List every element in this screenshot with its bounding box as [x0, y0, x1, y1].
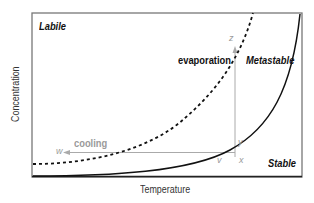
cooling-label: cooling: [74, 138, 107, 149]
x-axis-label: Temperature: [140, 184, 190, 195]
point-label-v: v: [217, 156, 222, 165]
point-label-x: x: [239, 156, 244, 165]
point-label-y: y: [238, 138, 243, 147]
region-label-metastable: Metastable: [246, 55, 294, 66]
region-label-labile: Labile: [39, 21, 66, 32]
arrow-up-icon: [233, 46, 238, 53]
y-axis-label: Concentration: [10, 66, 21, 122]
arrow-left-icon: [63, 150, 70, 155]
supersolubility-curve: [33, 13, 253, 164]
solubility-curve: [33, 14, 300, 176]
point-label-w: w: [56, 147, 63, 156]
point-label-z: z: [229, 34, 234, 43]
region-label-stable: Stable: [268, 158, 296, 169]
evaporation-label: evaporation: [178, 55, 231, 66]
